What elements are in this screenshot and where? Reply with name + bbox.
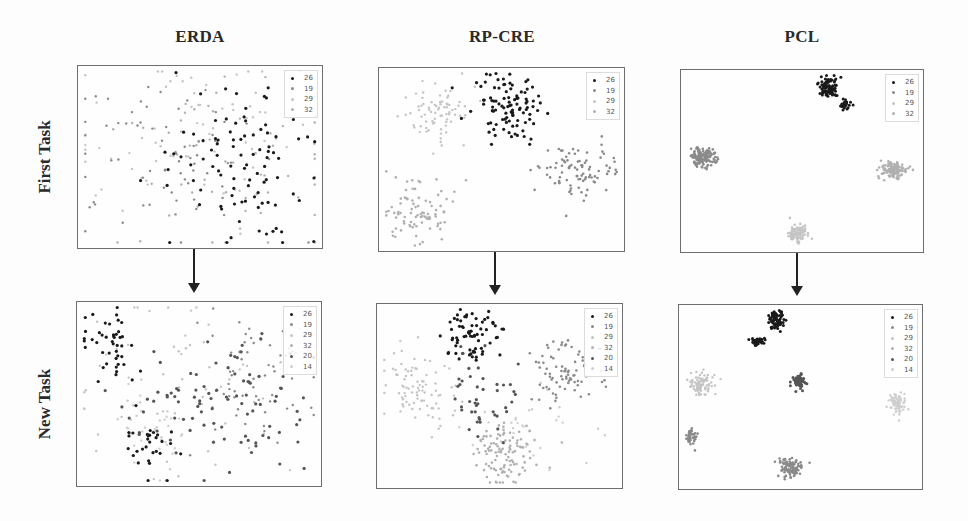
legend-marker-icon [591, 325, 594, 328]
legend-item: 29 [892, 98, 914, 109]
legend-item: 29 [591, 332, 613, 343]
legend-marker-icon [891, 347, 894, 350]
legend-marker-icon [892, 81, 895, 84]
legend-marker-icon [591, 336, 594, 339]
legend-marker-icon [291, 77, 294, 80]
legend-item: 26 [593, 75, 615, 86]
legend-label: 14 [303, 363, 312, 371]
legend: 261929322014 [584, 308, 618, 377]
scatter-panel-rp-cre-first: 26192932 [378, 67, 625, 252]
legend-marker-icon [593, 100, 596, 103]
legend-label: 29 [304, 95, 313, 103]
legend-item: 20 [290, 351, 312, 362]
legend-item: 19 [290, 320, 312, 331]
legend-label: 32 [604, 344, 613, 352]
legend-marker-icon [290, 313, 293, 316]
legend-marker-icon [593, 110, 596, 113]
legend-label: 19 [303, 321, 312, 329]
row-label-first-task: First Task [35, 97, 55, 217]
legend-label: 19 [905, 89, 914, 97]
column-title-erda: ERDA [140, 27, 260, 47]
legend-item: 32 [892, 109, 914, 120]
legend-item: 32 [591, 343, 613, 354]
legend-label: 32 [606, 108, 615, 116]
legend-item: 29 [291, 94, 313, 105]
scatter-panel-pcl-new: 261929322014 [678, 304, 923, 490]
legend-marker-icon [290, 355, 293, 358]
legend-label: 26 [303, 310, 312, 318]
legend-marker-icon [291, 98, 294, 101]
legend-label: 32 [304, 106, 313, 114]
legend-label: 26 [905, 78, 914, 86]
legend-item: 19 [593, 86, 615, 97]
arrow-down-erda [193, 249, 195, 291]
legend-item: 26 [892, 77, 914, 88]
legend-label: 20 [303, 352, 312, 360]
legend-label: 19 [904, 324, 913, 332]
row-label-new-task: New Task [35, 344, 55, 464]
legend-label: 32 [303, 342, 312, 350]
arrow-down-pcl [796, 253, 798, 294]
legend-item: 29 [891, 333, 913, 344]
legend-item: 32 [290, 341, 312, 352]
legend-marker-icon [290, 323, 293, 326]
legend-label: 20 [904, 355, 913, 363]
column-title-rp-cre: RP-CRE [442, 27, 562, 47]
arrow-down-rp-cre [494, 252, 496, 293]
scatter-panel-erda-new: 261929322014 [76, 301, 322, 487]
legend: 261929322014 [283, 306, 317, 375]
legend-item: 14 [591, 364, 613, 375]
legend-marker-icon [591, 315, 594, 318]
legend-label: 29 [606, 97, 615, 105]
legend-marker-icon [593, 79, 596, 82]
legend-label: 29 [303, 331, 312, 339]
legend-marker-icon [290, 344, 293, 347]
legend-item: 19 [291, 84, 313, 95]
legend-marker-icon [891, 316, 894, 319]
legend-label: 14 [604, 365, 613, 373]
legend-item: 14 [891, 365, 913, 376]
legend-marker-icon [591, 367, 594, 370]
legend: 261929322014 [884, 309, 918, 378]
legend-label: 29 [604, 333, 613, 341]
legend-item: 32 [891, 344, 913, 355]
legend-label: 20 [604, 354, 613, 362]
legend-marker-icon [891, 368, 894, 371]
legend-label: 19 [304, 85, 313, 93]
legend-item: 26 [291, 73, 313, 84]
legend-marker-icon [891, 326, 894, 329]
legend-item: 26 [891, 312, 913, 323]
legend-item: 14 [290, 362, 312, 373]
legend-marker-icon [892, 102, 895, 105]
scatter-panel-erda-first: 26192932 [77, 65, 323, 249]
legend-label: 26 [604, 312, 613, 320]
legend-marker-icon [591, 357, 594, 360]
legend-item: 20 [591, 353, 613, 364]
legend-marker-icon [291, 108, 294, 111]
legend-label: 26 [606, 76, 615, 84]
legend-marker-icon [291, 87, 294, 90]
legend-item: 20 [891, 354, 913, 365]
scatter-panel-pcl-first: 26192932 [680, 69, 924, 253]
legend-label: 32 [905, 110, 914, 118]
scatter-panel-rp-cre-new: 261929322014 [376, 303, 623, 489]
legend-item: 26 [290, 309, 312, 320]
legend-marker-icon [891, 358, 894, 361]
legend-item: 29 [290, 330, 312, 341]
legend: 26192932 [284, 70, 318, 118]
legend-label: 26 [304, 74, 313, 82]
legend-item: 19 [892, 88, 914, 99]
legend-marker-icon [290, 334, 293, 337]
legend-marker-icon [892, 112, 895, 115]
legend-marker-icon [891, 337, 894, 340]
legend-label: 19 [604, 323, 613, 331]
legend-marker-icon [290, 365, 293, 368]
legend-label: 14 [904, 366, 913, 374]
legend-item: 32 [291, 105, 313, 116]
legend-label: 32 [904, 345, 913, 353]
legend-marker-icon [892, 91, 895, 94]
legend-label: 26 [904, 313, 913, 321]
legend-marker-icon [593, 89, 596, 92]
legend-marker-icon [591, 346, 594, 349]
legend-item: 19 [891, 323, 913, 334]
